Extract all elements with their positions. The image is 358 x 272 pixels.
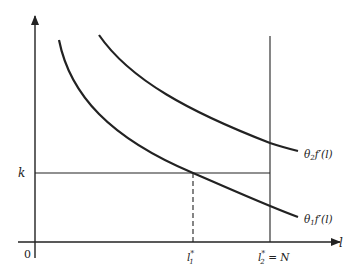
theta2-function: f′(l)	[314, 148, 333, 160]
l2star-suffix: = N	[265, 251, 290, 263]
origin-label: 0	[24, 248, 31, 261]
theta1-function: f′(l)	[314, 213, 333, 225]
k-label: k	[18, 166, 25, 180]
theta2-curve	[99, 35, 298, 151]
l1star-label: l*1	[187, 249, 194, 266]
x-axis-label: l	[339, 236, 343, 250]
diagram-canvas: 0 l k θ2f′(l) θ1f′(l) l*1 l*2 = N	[0, 0, 358, 272]
l2star-label: l*2 = N	[258, 249, 290, 266]
l1star-sub: 1	[189, 258, 193, 266]
l1star-sup: *	[190, 249, 194, 258]
theta1-curve-label: θ1f′(l)	[304, 213, 333, 227]
theta1-curve	[59, 40, 298, 217]
theta2-curve-label: θ2f′(l)	[304, 148, 333, 162]
